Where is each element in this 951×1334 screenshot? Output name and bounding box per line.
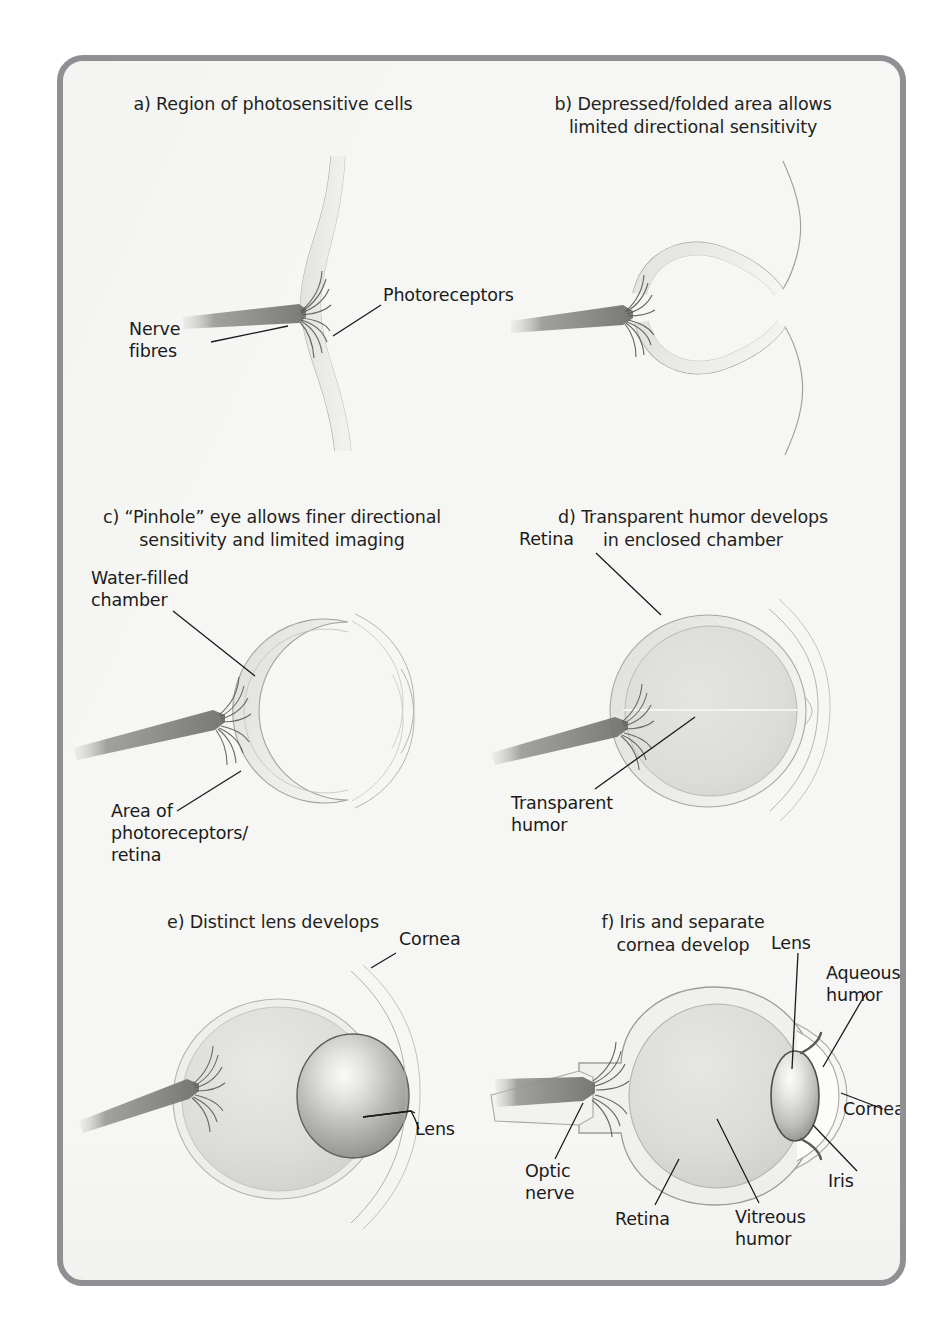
label-vitreous-humor-line1: Vitreous [735, 1207, 806, 1229]
panel-e: e) Distinct lens develops [63, 881, 483, 1281]
label-cornea: Cornea [399, 929, 461, 951]
label-optic-nerve-line2: nerve [525, 1183, 574, 1205]
label-vitreous-humor-line2: humor [735, 1229, 791, 1251]
label-water-filled-chamber-line1: Water-filled [91, 568, 189, 590]
panel-a-illustration [63, 61, 483, 481]
label-area-of-photoreceptors-line1: Area of [111, 801, 173, 823]
label-retina: Retina [519, 529, 574, 551]
label-transparent-humor-line2: humor [511, 815, 567, 837]
panel-b-illustration [483, 61, 906, 481]
label-nerve-fibres-line1: Nerve [129, 319, 180, 341]
panel-c: c) “Pinhole” eye allows finer directiona… [63, 481, 483, 881]
label-area-of-photoreceptors-line3: retina [111, 845, 161, 867]
figure-frame: a) Region of photosensitive cells [57, 55, 906, 1286]
panel-d: d) Transparent humor develops in enclose… [483, 481, 906, 881]
label-lens: Lens [415, 1119, 455, 1141]
label-lens: Lens [771, 933, 811, 955]
label-nerve-fibres-line2: fibres [129, 341, 177, 363]
label-optic-nerve-line1: Optic [525, 1161, 570, 1183]
label-water-filled-chamber-line2: chamber [91, 590, 168, 612]
label-aqueous-humor-line2: humor [826, 985, 882, 1007]
panel-b: b) Depressed/folded area allows limited … [483, 61, 906, 481]
label-iris: Iris [828, 1171, 854, 1193]
panel-a: a) Region of photosensitive cells [63, 61, 483, 481]
page-canvas: a) Region of photosensitive cells [0, 0, 951, 1334]
label-cornea: Cornea [843, 1099, 905, 1121]
panel-f-illustration [483, 881, 906, 1281]
label-retina: Retina [615, 1209, 670, 1231]
panel-f: f) Iris and separate cornea develop [483, 881, 906, 1281]
label-transparent-humor-line1: Transparent [511, 793, 613, 815]
label-area-of-photoreceptors-line2: photoreceptors/ [111, 823, 248, 845]
label-aqueous-humor-line1: Aqueous [826, 963, 901, 985]
